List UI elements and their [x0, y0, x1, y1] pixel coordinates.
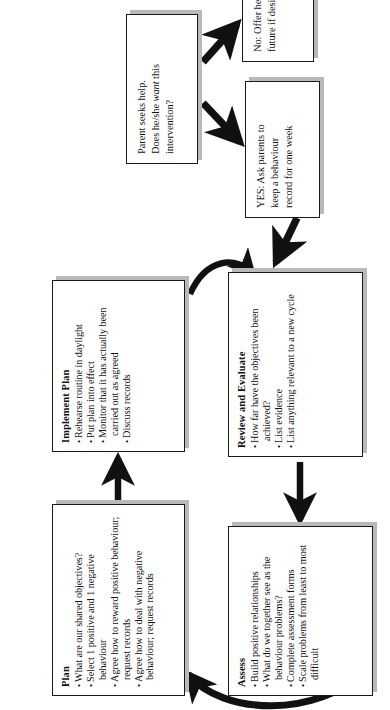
bullet-item: Rehearse routine in daylight — [73, 289, 85, 443]
node-plan-title: Plan — [60, 513, 72, 687]
node-yes-line-3: record for one week — [282, 91, 296, 208]
node-parent-line-1: Parent seeks help. — [135, 24, 149, 154]
diagram-page: Plan What are our shared objectives? Sel… — [0, 0, 390, 710]
bullet-item: How far have the objectives been achieve… — [249, 281, 273, 448]
bullet-item: Scale problems from least to most diffic… — [297, 535, 321, 687]
node-no-line-2: future if desired — [265, 0, 279, 52]
bullet-item: List anything relevant to a new cycle — [285, 281, 297, 448]
arrow-yes-to-assess — [276, 218, 297, 262]
node-parent-line-3: intervention? — [163, 24, 177, 154]
node-no-offer-help[interactable]: No: Offer help in future if desired — [242, 0, 314, 62]
node-parent-seeks-help[interactable]: Parent seeks help. Does he/she want this… — [126, 14, 198, 164]
node-review-and-evaluate-title: Review and Evaluate — [236, 281, 248, 448]
node-no-line-1: No: Offer help in — [251, 0, 265, 52]
bullet-item: Monitor that it has actually been carrie… — [97, 289, 121, 443]
bullet-item: What do we together see as the behaviour… — [261, 535, 285, 687]
bullet-item: What are our shared objectives? — [73, 513, 85, 687]
node-parent-line-2-pre: Does he/she — [150, 102, 161, 155]
bullet-item: List evidence — [273, 281, 285, 448]
node-plan-bullets: What are our shared objectives? Select 1… — [73, 513, 156, 687]
diagram-canvas: Plan What are our shared objectives? Sel… — [0, 0, 390, 710]
bullet-item: Discuss records — [121, 289, 133, 443]
node-review-and-evaluate[interactable]: Review and Evaluate How far have the obj… — [228, 272, 363, 457]
node-assess[interactable]: Assess Build positive relationships What… — [228, 526, 373, 696]
node-yes-line-1: YES: Ask parents to — [254, 91, 268, 208]
node-review-and-evaluate-bullets: How far have the objectives been achieve… — [249, 281, 296, 448]
node-parent-line-2: Does he/she want this — [149, 24, 163, 154]
bullet-item: Agree how to deal with negative behaviou… — [133, 513, 157, 687]
node-assess-bullets: Build positive relationships What do we … — [249, 535, 320, 687]
node-yes-keep-record[interactable]: YES: Ask parents to keep a behaviour rec… — [245, 81, 320, 218]
node-parent-line-2-emphasis: want — [150, 81, 161, 101]
node-assess-title: Assess — [236, 535, 248, 687]
bullet-item: Select 1 positive and 1 negative behavio… — [85, 513, 109, 687]
arrow-parent-to-no — [203, 24, 237, 62]
bullet-item: Agree how to reward positive behaviour; … — [109, 513, 133, 687]
node-parent-line-2-post: this — [150, 64, 161, 81]
bullet-item: Build positive relationships — [249, 535, 261, 687]
node-yes-line-2: keep a behaviour — [268, 91, 282, 208]
bullet-item: Put plan into effect — [85, 289, 97, 443]
node-implement-plan-bullets: Rehearse routine in daylight Put plan in… — [73, 289, 132, 443]
bullet-item: Complete assessment forms — [285, 535, 297, 687]
node-implement-plan[interactable]: Implement Plan Rehearse routine in dayli… — [52, 280, 185, 452]
arrow-parent-to-yes — [203, 103, 240, 142]
node-implement-plan-title: Implement Plan — [60, 289, 72, 443]
node-plan[interactable]: Plan What are our shared objectives? Sel… — [52, 504, 185, 696]
